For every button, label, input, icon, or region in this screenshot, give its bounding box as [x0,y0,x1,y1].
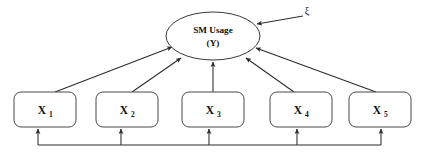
latent-label-line2: (Y) [207,38,220,48]
path-arrow-xi-to-y [257,16,303,24]
indicator-label-x2: X [120,104,129,116]
correlation-bus-group [38,129,381,145]
latent-ellipse-shape [166,12,260,60]
path-arrow-x2-to-y [132,58,181,92]
path-arrow-x5-to-y [256,48,376,92]
indicator-node-x3[interactable]: X 3 [182,92,244,127]
latent-variable-node[interactable]: SM Usage (Y) [166,12,260,60]
indicator-subscript-x1: 1 [49,110,53,119]
indicator-label-x3: X [206,104,215,116]
indicator-node-x2[interactable]: X 2 [96,92,158,127]
indicator-node-x5[interactable]: X 5 [349,92,411,127]
path-arrow-x4-to-y [246,58,294,92]
diagram-svg: SM Usage (Y) ξ X 1 X 2 X 3 X 4 X [0,0,425,157]
indicator-node-x1[interactable]: X 1 [14,92,76,127]
indicator-label-x1: X [38,104,47,116]
disturbance-xi-label: ξ [305,5,310,17]
indicator-node-x4[interactable]: X 4 [270,92,332,127]
indicator-subscript-x5: 5 [384,110,388,119]
indicator-subscript-x2: 2 [131,110,135,119]
latent-label-line1: SM Usage [193,25,233,35]
path-diagram-canvas: SM Usage (Y) ξ X 1 X 2 X 3 X 4 X [0,0,425,157]
indicator-subscript-x4: 4 [305,110,309,119]
indicator-label-x5: X [373,104,382,116]
path-arrow-x1-to-y [55,47,172,92]
indicator-label-x4: X [294,104,303,116]
indicator-subscript-x3: 3 [217,110,221,119]
